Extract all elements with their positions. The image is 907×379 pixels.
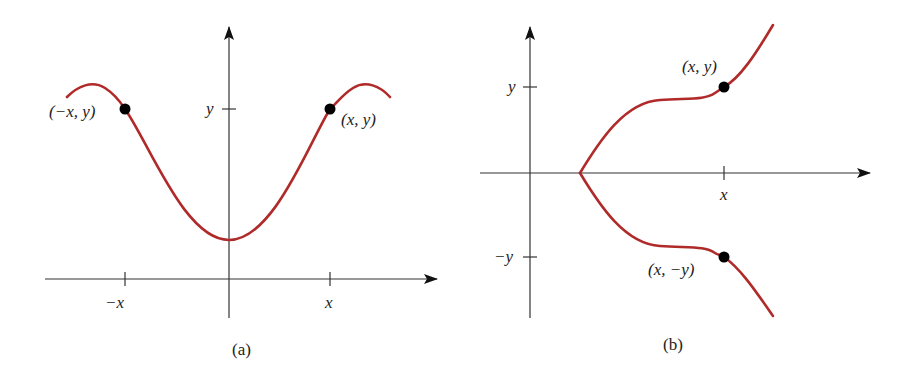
tick-label-neg-y: −y	[494, 247, 513, 266]
panel-a: (−x, y) (x, y) y −x x (a)	[45, 27, 437, 359]
point-label-x-neg-y: (x, −y)	[648, 260, 695, 279]
point-neg-x-y	[120, 104, 131, 115]
upper-branch-curve	[580, 25, 773, 173]
tick-label-pos-x: x	[324, 293, 333, 312]
symmetry-figure: (−x, y) (x, y) y −x x (a) (x, y) (x, −y)…	[0, 0, 907, 379]
point-x-y	[325, 104, 336, 115]
tick-label-x: x	[719, 185, 728, 204]
point-x-neg-y	[719, 252, 730, 263]
tick-label-neg-x: −x	[105, 293, 124, 312]
tick-label-pos-y: y	[506, 77, 516, 96]
lower-branch-curve	[580, 173, 773, 316]
point-x-y	[719, 82, 730, 93]
point-label-x-y: (x, y)	[341, 110, 376, 129]
point-label-x-y: (x, y)	[682, 57, 717, 76]
tick-label-y: y	[204, 99, 214, 118]
panel-b: (x, y) (x, −y) y −y x (b)	[480, 25, 870, 354]
caption-a: (a)	[232, 340, 251, 359]
caption-b: (b)	[663, 335, 683, 354]
point-label-neg-x-y: (−x, y)	[49, 102, 96, 121]
